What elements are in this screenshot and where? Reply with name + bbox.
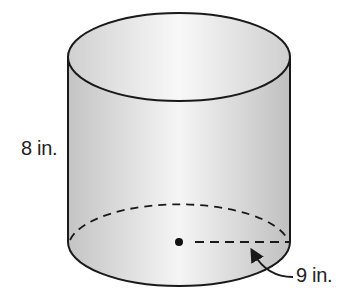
height-label: 8 in. [21,137,57,160]
top-face [68,13,290,101]
center-point [175,238,183,246]
radius-label: 9 in. [296,264,332,287]
